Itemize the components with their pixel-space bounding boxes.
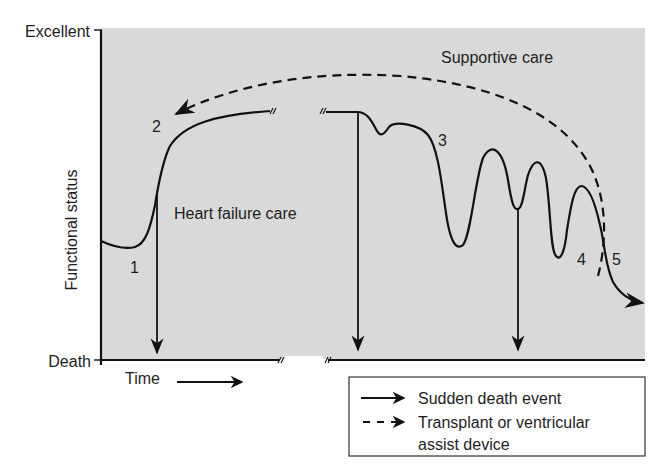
legend: Sudden death event Transplant or ventric… — [349, 377, 645, 456]
stage-label-3: 3 — [438, 132, 447, 149]
axis-break-gap — [283, 356, 323, 362]
x-axis-label: Time — [125, 370, 160, 387]
legend-label-transplant-line2: assist device — [418, 436, 510, 453]
stage-label-5: 5 — [612, 251, 621, 268]
legend-label-transplant-line1: Transplant or ventricular — [418, 414, 591, 431]
heart-failure-care-label: Heart failure care — [174, 205, 297, 222]
stage-label-2: 2 — [152, 118, 161, 135]
legend-label-sudden-death: Sudden death event — [418, 390, 562, 407]
supportive-care-label: Supportive care — [441, 49, 553, 66]
y-tick-label-death: Death — [48, 353, 91, 370]
y-tick-label-excellent: Excellent — [25, 23, 90, 40]
stage-label-1: 1 — [130, 259, 139, 276]
plot-background — [101, 28, 645, 359]
heart-failure-trajectory-diagram: Excellent Death Functional status Time H… — [0, 0, 662, 471]
stage-label-4: 4 — [577, 251, 586, 268]
y-axis-label: Functional status — [63, 170, 80, 291]
